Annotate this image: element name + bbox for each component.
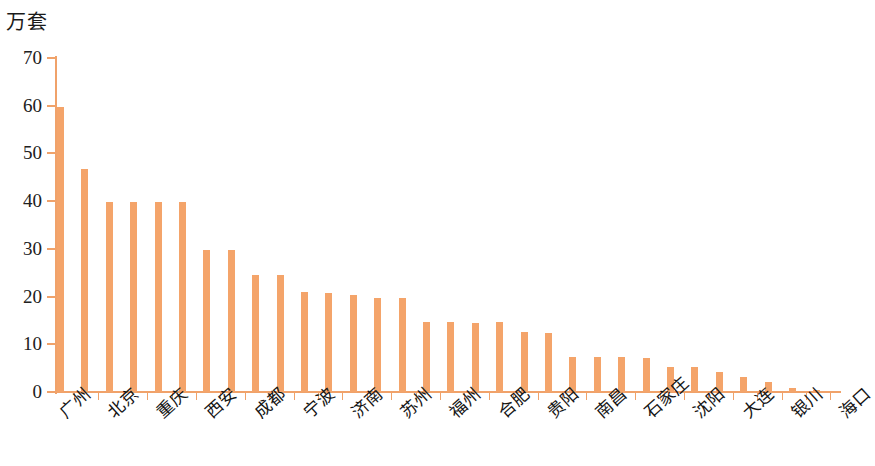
- x-axis-tick: [245, 392, 246, 400]
- x-axis-tick: [391, 392, 392, 400]
- y-axis-tick-label: 0: [0, 382, 42, 401]
- bar: [350, 295, 357, 392]
- y-axis-tick: [47, 296, 55, 298]
- y-axis-tick: [47, 57, 55, 59]
- bar: [130, 202, 137, 392]
- y-axis-tick: [47, 248, 55, 250]
- bar: [57, 107, 64, 392]
- x-axis-tick: [782, 392, 783, 400]
- y-axis-tick-label: 30: [0, 239, 42, 258]
- y-axis-tick-label: 20: [0, 287, 42, 306]
- y-axis-tick-label: 50: [0, 143, 42, 162]
- bar: [423, 322, 430, 392]
- bar: [789, 388, 796, 392]
- bar: [521, 332, 528, 392]
- bar: [472, 323, 479, 392]
- bar: [277, 275, 284, 392]
- bar: [228, 250, 235, 392]
- y-axis-tick-label: 70: [0, 48, 42, 67]
- y-axis-tick: [47, 105, 55, 107]
- y-axis-tick-label: 60: [0, 96, 42, 115]
- bar: [179, 202, 186, 392]
- y-axis-tick-label: 40: [0, 191, 42, 210]
- y-axis-tick-label: 10: [0, 334, 42, 353]
- bar: [643, 358, 650, 392]
- x-axis-tick: [294, 392, 295, 400]
- bar: [301, 292, 308, 392]
- bar: [447, 322, 454, 392]
- y-axis-tick: [47, 200, 55, 202]
- bar: [106, 202, 113, 392]
- bar: [496, 322, 503, 392]
- x-axis-tick: [538, 392, 539, 400]
- y-axis-tick: [47, 391, 55, 393]
- x-axis-tick: [586, 392, 587, 400]
- y-axis-tick: [47, 343, 55, 345]
- x-axis-label: 海口: [833, 381, 875, 422]
- x-axis-tick: [98, 392, 99, 400]
- bar: [81, 169, 88, 392]
- bar: [155, 202, 162, 392]
- x-axis-tick: [635, 392, 636, 400]
- bar: [252, 275, 259, 392]
- x-axis-tick: [489, 392, 490, 400]
- x-axis-tick: [733, 392, 734, 400]
- x-axis-tick: [440, 392, 441, 400]
- bar: [325, 293, 332, 392]
- x-axis-tick: [342, 392, 343, 400]
- x-axis-tick: [196, 392, 197, 400]
- bar: [594, 357, 601, 392]
- bar: [740, 377, 747, 392]
- bar: [545, 333, 552, 392]
- y-axis-tick: [47, 152, 55, 154]
- y-axis-unit-label: 万套: [6, 6, 48, 35]
- bar: [399, 298, 406, 392]
- x-axis-tick: [830, 392, 831, 400]
- bar: [374, 298, 381, 392]
- bar: [203, 250, 210, 392]
- x-axis-tick: [147, 392, 148, 400]
